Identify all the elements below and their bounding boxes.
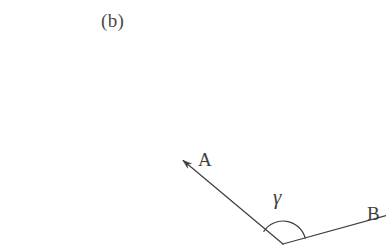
figure-canvas: (b) A B γ bbox=[0, 0, 386, 246]
vector-b-label: B bbox=[367, 203, 380, 225]
gamma-angle-label: γ bbox=[273, 185, 281, 210]
subfigure-label: (b) bbox=[101, 10, 124, 32]
vector-a-line bbox=[183, 161, 283, 244]
geometry-diagram bbox=[0, 0, 386, 246]
vector-a-label: A bbox=[198, 149, 212, 171]
gamma-angle-arc bbox=[264, 221, 305, 238]
